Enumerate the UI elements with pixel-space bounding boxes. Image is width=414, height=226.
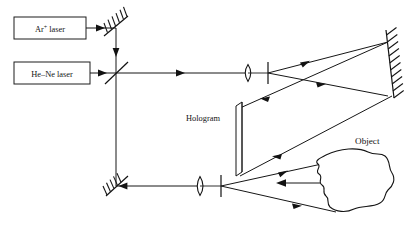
ar-laser-label: Ar+ laser [35,24,65,34]
right-mirror [386,28,404,99]
beam-reference-horizontal [116,70,248,77]
reference-spatial-filter [245,62,268,84]
holography-diagram: Hologram Object [0,0,414,226]
hologram-plate [236,102,242,176]
arrowhead-vertical-top-beam [113,48,120,57]
right-mirror-hatching [387,28,404,99]
object-blob [317,149,394,212]
arrowhead-hene-beam [98,70,107,77]
arrowhead-reference-beam [176,70,185,77]
arrowhead-object-upper [278,171,288,178]
hologram-label: Hologram [186,114,220,123]
arrowhead-ar-beam [96,25,105,32]
beam-vertical-top [113,28,120,73]
object-blob-shape [317,149,394,212]
arrowhead-ref-upper [300,61,310,68]
object-spatial-filter [197,175,221,197]
hologram-plate-body [236,102,242,176]
beam-hene-horizontal [90,70,116,77]
he-ne-laser-label: He–Ne laser [31,70,73,79]
he-ne-laser-box[interactable]: He–Ne laser [14,62,90,84]
ar-laser-box[interactable]: Ar+ laser [14,17,86,39]
figure-canvas: Hologram Object [0,0,414,226]
arrowhead-reflected-upper [260,97,270,102]
object-label: Object [355,136,380,146]
arrowhead-scattered-center [276,179,286,186]
